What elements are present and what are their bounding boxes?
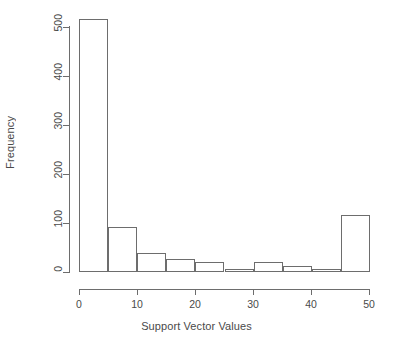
x-tick-50 [369, 289, 370, 295]
x-tick-label-30: 30 [240, 298, 266, 310]
y-axis-line [69, 26, 70, 273]
x-tick-0 [79, 289, 80, 295]
y-tick-label-500: 500 [52, 14, 65, 32]
histogram-bar [137, 253, 166, 272]
x-axis-line [79, 289, 370, 290]
y-tick-label-0: 0 [52, 266, 65, 272]
x-tick-40 [311, 289, 312, 295]
y-tick-label-100: 100 [52, 210, 65, 228]
y-tick-label-200: 200 [52, 161, 65, 179]
histogram-bar [79, 19, 108, 273]
x-tick-label-0: 0 [66, 298, 92, 310]
histogram-bar [195, 262, 224, 273]
y-tick-label-400: 400 [52, 63, 65, 81]
x-tick-label-20: 20 [182, 298, 208, 310]
x-tick-label-40: 40 [298, 298, 324, 310]
histogram-bar [254, 262, 283, 273]
x-tick-20 [195, 289, 196, 295]
x-tick-10 [137, 289, 138, 295]
x-axis-title: Support Vector Values [0, 320, 393, 332]
histogram-bar [341, 215, 370, 272]
y-tick-label-300: 300 [52, 112, 65, 130]
histogram-bar [108, 227, 137, 272]
x-tick-label-50: 50 [356, 298, 382, 310]
histogram-bar [225, 269, 254, 273]
histogram-bar [166, 259, 195, 272]
histogram-bar [283, 266, 312, 272]
y-tick-0 [63, 272, 69, 273]
y-axis-title: Frequency [4, 116, 20, 169]
histogram-bar [312, 269, 341, 272]
histogram-plot: Frequency Support Vector Values 0 100 20… [0, 0, 393, 350]
x-tick-30 [253, 289, 254, 295]
x-tick-label-10: 10 [124, 298, 150, 310]
